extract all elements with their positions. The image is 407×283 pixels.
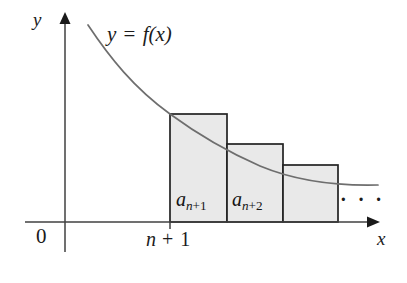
figure-canvas (0, 0, 407, 283)
ellipsis-label: · · · (340, 189, 385, 209)
rect-sub-2-base: n (242, 198, 249, 213)
curve-label-lhs: y (107, 22, 116, 46)
tick-label-offset: 1 (179, 228, 191, 250)
rect-label-a-n-plus-2-subscript: n+2 (242, 198, 263, 213)
integral-test-figure: y x 0 y = f(x) n + 1 an+1 an+2 · · · (0, 0, 407, 283)
rect-sub-1-base: n (186, 198, 193, 213)
rect-label-a-n-plus-2: an+2 (232, 189, 263, 212)
y-axis-arrow-icon (60, 12, 71, 24)
rect-unlabeled-third (283, 165, 338, 222)
x-axis-tick-label: n + 1 (146, 229, 191, 249)
x-axis-label: x (377, 229, 385, 248)
rect-label-a-n-plus-2-base: a (232, 188, 242, 210)
rect-label-a-n-plus-1: an+1 (176, 189, 207, 212)
rect-label-a-n-plus-1-base: a (176, 188, 186, 210)
rect-label-a-n-plus-1-subscript: n+1 (186, 198, 207, 213)
origin-label: 0 (36, 226, 47, 247)
x-axis-arrow-icon (367, 217, 380, 228)
rect-sub-2-op: + (249, 198, 256, 213)
tick-label-base: n (146, 228, 156, 250)
curve-label: y = f(x) (107, 24, 172, 45)
curve-label-equals: = (116, 22, 142, 46)
y-axis-label: y (33, 10, 41, 29)
curve-label-rhs: f(x) (143, 22, 172, 46)
rect-sub-1-offset: 1 (200, 198, 207, 213)
tick-label-operator: + (156, 228, 179, 250)
rect-sub-1-op: + (193, 198, 200, 213)
rect-sub-2-offset: 2 (256, 198, 263, 213)
